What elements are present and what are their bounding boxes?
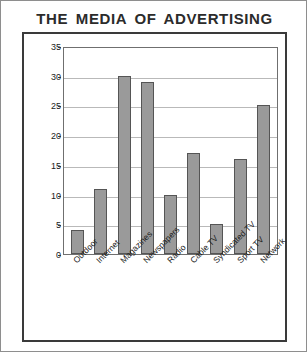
chart-frame: Billions of Dollars 05101520253035 Outdo…	[22, 32, 287, 342]
y-tick-mark	[58, 196, 61, 197]
y-tick-mark	[58, 47, 61, 48]
bar-slot	[159, 48, 182, 254]
bar-slot	[89, 48, 112, 254]
bar-slot	[66, 48, 89, 254]
bar-slot	[182, 48, 205, 254]
bar-magazines[interactable]	[118, 76, 131, 254]
y-axis-tick-labels: 05101520253035	[35, 47, 61, 255]
bar-slot	[112, 48, 135, 254]
y-tick-mark	[58, 225, 61, 226]
y-tick-mark	[58, 106, 61, 107]
x-axis-tick-labels: OutdoorInternetMagazinesNewspapersRadioC…	[63, 256, 278, 336]
bar-slot	[252, 48, 275, 254]
chart-title: THE MEDIA OF ADVERTISING	[1, 10, 307, 27]
bar-network[interactable]	[257, 105, 270, 254]
y-tick-mark	[58, 255, 61, 256]
y-tick-mark	[58, 136, 61, 137]
y-tick-mark	[58, 77, 61, 78]
bar-slot	[205, 48, 228, 254]
chart-page: THE MEDIA OF ADVERTISING Billions of Dol…	[0, 0, 307, 352]
y-tick-mark	[58, 166, 61, 167]
bar-cable-tv[interactable]	[187, 153, 200, 254]
bar-slot	[136, 48, 159, 254]
